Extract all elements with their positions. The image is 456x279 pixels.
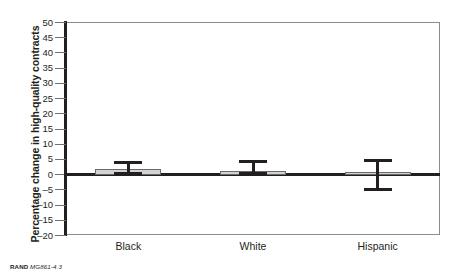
- y-tick-9: [55, 159, 66, 160]
- y-tick-label-13: –15: [13, 215, 53, 225]
- category-label-white: White: [198, 240, 308, 252]
- y-tick-2: [55, 52, 66, 53]
- chart-figure: Percentage change in high-quality contra…: [0, 0, 456, 279]
- y-tick-14: [55, 235, 66, 236]
- y-tick-label-9: 5: [13, 154, 53, 164]
- y-tick-6: [55, 113, 66, 114]
- y-tick-1: [55, 37, 66, 38]
- y-tick-label-14: –20: [13, 231, 53, 241]
- y-tick-8: [55, 144, 66, 145]
- error-cap-lower-white: [239, 172, 267, 175]
- error-cap-lower-black: [114, 172, 142, 175]
- error-cap-upper-white: [239, 160, 267, 163]
- y-tick-7: [55, 129, 66, 130]
- error-cap-upper-black: [114, 161, 142, 164]
- y-tick-13: [55, 220, 66, 221]
- plot-area: [66, 22, 440, 235]
- y-tick-12: [55, 205, 66, 206]
- y-tick-3: [55, 68, 66, 69]
- error-cap-upper-hispanic: [364, 159, 392, 162]
- y-tick-label-0: 50: [13, 18, 53, 28]
- y-tick-label-12: –10: [13, 200, 53, 210]
- credit-organization: RAND: [10, 263, 28, 270]
- y-tick-label-10: 0: [13, 170, 53, 180]
- y-tick-label-4: 30: [13, 78, 53, 88]
- y-tick-5: [55, 98, 66, 99]
- error-bar-hispanic: [376, 159, 379, 191]
- y-tick-label-6: 20: [13, 109, 53, 119]
- y-tick-label-7: 15: [13, 124, 53, 134]
- error-cap-lower-hispanic: [364, 188, 392, 191]
- y-tick-label-1: 45: [13, 33, 53, 43]
- y-tick-4: [55, 83, 66, 84]
- y-tick-label-5: 25: [13, 94, 53, 104]
- y-tick-label-3: 35: [13, 63, 53, 73]
- y-tick-0: [55, 22, 66, 23]
- y-tick-11: [55, 189, 66, 190]
- y-tick-label-8: 10: [13, 139, 53, 149]
- credit-figure-number: MG861-4.3: [30, 263, 62, 270]
- category-label-hispanic: Hispanic: [323, 240, 433, 252]
- y-tick-label-2: 40: [13, 48, 53, 58]
- figure-credit: RAND MG861-4.3: [10, 263, 62, 270]
- category-label-black: Black: [73, 240, 183, 252]
- y-tick-label-11: –5: [13, 185, 53, 195]
